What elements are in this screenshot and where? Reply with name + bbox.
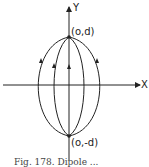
field-line-inner-left	[54, 37, 69, 136]
field-line-inner-right	[69, 37, 84, 136]
x-axis-label: X	[141, 80, 148, 90]
figure-caption: Fig. 178. Dipole ...	[14, 158, 98, 167]
point-bottom-label: (o,-d)	[71, 138, 98, 148]
y-axis-label: Y	[73, 3, 79, 13]
arrow-icon	[39, 58, 43, 63]
point-top-label: (o,d)	[71, 27, 94, 37]
arrow-icon	[95, 58, 99, 63]
arrow-icon	[67, 64, 71, 69]
